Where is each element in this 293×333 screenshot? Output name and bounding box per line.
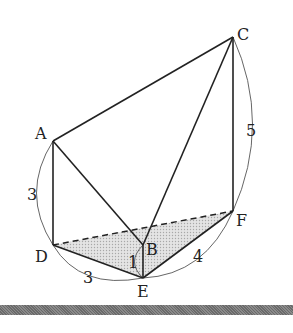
measure-cf: 5 — [246, 121, 256, 140]
label-f: F — [236, 211, 247, 230]
label-d: D — [35, 247, 48, 266]
label-a: A — [34, 124, 47, 143]
measure-ef: 4 — [193, 247, 203, 266]
edge-ac — [53, 37, 233, 141]
label-b: B — [146, 240, 158, 259]
label-e: E — [137, 282, 149, 301]
measure-be: 1 — [128, 253, 138, 272]
prism-diagram: A B C D E F 3 5 3 4 1 — [0, 0, 293, 333]
label-c: C — [237, 25, 249, 44]
measure-ad: 3 — [27, 185, 37, 204]
measure-de: 3 — [83, 268, 93, 287]
bottom-divider-bar — [0, 305, 293, 315]
edge-ab — [53, 141, 143, 245]
arc-ad — [37, 141, 54, 245]
